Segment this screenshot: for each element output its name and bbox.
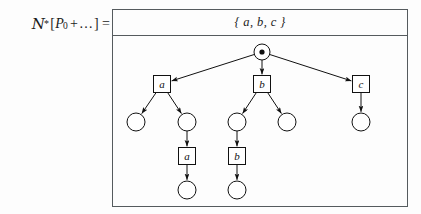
tree-node-circle-b-leaf: [228, 181, 246, 199]
place-circle: [178, 113, 196, 131]
tree-node-circle-b-l: [228, 113, 246, 131]
marking-header: { a, b, c }: [113, 10, 407, 36]
node-layer: abcab: [127, 44, 370, 199]
token-dot-icon: [259, 49, 264, 54]
tree-node-box-a-1: a: [154, 76, 171, 93]
tree-node-circle-b-r: [278, 113, 296, 131]
tree-node-box-b-1: b: [254, 76, 271, 93]
operator-n-symbol: N: [32, 15, 45, 33]
tree-node-box-c-1: c: [353, 76, 370, 93]
tree-node-circle-a-l: [127, 113, 145, 131]
tree-node-circle-a-leaf: [178, 181, 196, 199]
node-label: c: [359, 78, 364, 90]
tree-node-box-b-2: b: [229, 148, 246, 165]
equation-label: N*[P0+…]=: [6, 12, 110, 36]
place-circle: [278, 113, 296, 131]
tree-node-circle-c: [352, 113, 370, 131]
tree-edge: [172, 54, 255, 80]
place-circle: [228, 113, 246, 131]
tree-edge: [142, 93, 156, 114]
equals-sign: =: [99, 16, 110, 32]
place-circle: [228, 181, 246, 199]
place-circle: [352, 113, 370, 131]
tree-edge: [268, 93, 282, 114]
place-circle: [127, 113, 145, 131]
node-label: a: [184, 150, 190, 162]
node-label: a: [159, 78, 165, 90]
tree-node-circle-a-r: [178, 113, 196, 131]
edge-layer: [142, 54, 361, 179]
tree-edge: [243, 93, 257, 114]
figure-root: N*[P0+…]= { a, b, c } abcab: [0, 0, 421, 214]
process-subscript: 0: [63, 21, 68, 31]
tree-node-box-a-2: a: [179, 148, 196, 165]
tree-area: abcab: [113, 36, 407, 207]
causal-tree-svg: abcab: [113, 36, 407, 207]
tree-node-root: [254, 44, 270, 60]
plus-operator: +: [69, 16, 79, 32]
place-circle: [178, 181, 196, 199]
node-label: b: [259, 78, 265, 90]
marking-set-label: { a, b, c }: [234, 15, 285, 30]
tree-edge: [270, 54, 352, 80]
operator-star-icon: *: [44, 18, 49, 29]
diagram-frame: { a, b, c } abcab: [112, 9, 408, 207]
tree-edge: [168, 93, 182, 114]
node-label: b: [234, 150, 240, 162]
ellipsis: …: [79, 16, 94, 32]
